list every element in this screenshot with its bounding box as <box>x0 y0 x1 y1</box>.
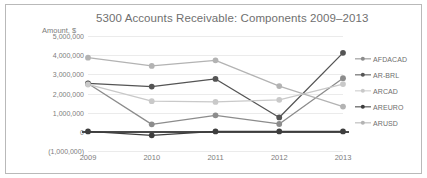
data-point-ar-brl-2011 <box>213 76 219 82</box>
y-axis-tick-labels: 5,000,0004,000,0003,000,0002,000,0001,00… <box>22 36 84 151</box>
data-point-afdacad-2013 <box>340 75 346 81</box>
legend-label: ARCAD <box>373 88 398 95</box>
plot-area <box>88 36 343 151</box>
data-point-arusd-2010 <box>149 63 155 69</box>
y-axis-tick-label: 1,000,000 <box>24 109 84 116</box>
data-point-arusd-2013 <box>340 104 346 110</box>
legend-marker-icon <box>355 71 371 79</box>
data-point-areuro-2013 <box>340 129 346 135</box>
legend-marker-icon <box>355 103 371 111</box>
data-point-arusd-2012 <box>276 83 282 89</box>
chart-container: 5300 Accounts Receivable: Components 200… <box>5 4 422 174</box>
y-axis-tick-label: 0 <box>24 128 84 135</box>
data-point-afdacad-2011 <box>213 112 219 118</box>
gridline <box>88 151 343 152</box>
data-point-ar-brl-2012 <box>276 115 282 121</box>
data-point-arcad-2012 <box>276 97 282 103</box>
legend-item-ar-brl[interactable]: AR-BRL <box>355 67 423 83</box>
data-point-arcad-2010 <box>149 98 155 104</box>
y-axis-tick-label: 5,000,000 <box>24 33 84 40</box>
legend-item-arcad[interactable]: ARCAD <box>355 83 423 99</box>
legend-item-afdacad[interactable]: AFDACAD <box>355 51 423 67</box>
data-point-areuro-2012 <box>276 129 282 135</box>
x-axis-tick-labels: 20092010201120122013 <box>88 153 343 167</box>
data-point-ar-brl-2013 <box>340 50 346 56</box>
y-axis-tick-label: 2,000,000 <box>24 90 84 97</box>
legend-marker-icon <box>355 87 371 95</box>
series-lines <box>88 36 343 151</box>
data-point-arcad-2013 <box>340 81 346 87</box>
legend-item-areuro[interactable]: AREURO <box>355 99 423 115</box>
x-axis-tick-label: 2012 <box>271 153 288 162</box>
legend-label: AFDACAD <box>373 56 407 63</box>
x-axis-tick-label: 2009 <box>80 153 97 162</box>
y-axis-tick-label: (1,000,000) <box>24 148 84 155</box>
data-point-ar-brl-2010 <box>149 84 155 90</box>
legend-label: AREURO <box>373 104 404 111</box>
legend-label: ARUSD <box>373 120 398 127</box>
data-point-areuro-2011 <box>213 129 219 135</box>
x-axis-tick-label: 2013 <box>335 153 352 162</box>
data-point-afdacad-2012 <box>276 121 282 127</box>
y-axis-tick-label: 3,000,000 <box>24 71 84 78</box>
chart-plot-region: 5300 Accounts Receivable: Components 200… <box>6 5 421 173</box>
legend-marker-icon <box>355 55 371 63</box>
x-axis-tick-label: 2010 <box>143 153 160 162</box>
data-point-afdacad-2010 <box>149 121 155 127</box>
data-point-areuro-2010 <box>149 132 155 138</box>
legend-marker-icon <box>355 119 371 127</box>
legend-label: AR-BRL <box>373 72 399 79</box>
data-point-areuro-2009 <box>85 129 91 135</box>
data-point-arcad-2011 <box>213 99 219 105</box>
data-point-arusd-2011 <box>213 57 219 63</box>
x-axis-tick-label: 2011 <box>207 153 223 162</box>
legend-item-arusd[interactable]: ARUSD <box>355 115 423 131</box>
chart-title: 5300 Accounts Receivable: Components 200… <box>96 12 326 24</box>
y-axis-tick-label: 4,000,000 <box>24 52 84 59</box>
chart-legend: AFDACADAR-BRLARCADAREUROARUSD <box>355 51 423 131</box>
data-point-arusd-2009 <box>85 55 91 61</box>
data-point-arcad-2009 <box>85 82 91 88</box>
